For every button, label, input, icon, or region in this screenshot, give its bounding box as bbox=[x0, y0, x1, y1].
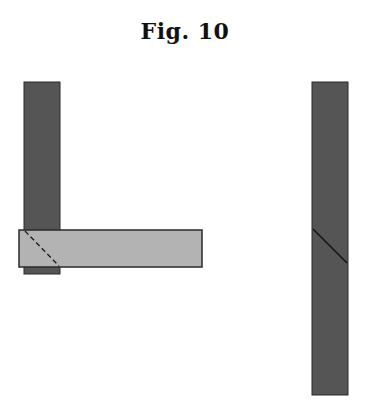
right-vertical-member bbox=[312, 82, 348, 395]
left-assembly bbox=[19, 82, 202, 274]
right-assembly bbox=[312, 82, 348, 395]
joint-diagram bbox=[0, 0, 370, 418]
horizontal-member bbox=[19, 230, 202, 267]
